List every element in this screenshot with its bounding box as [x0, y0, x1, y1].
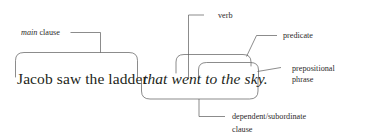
dependent-clause-label-line1: dependent/subordinate	[232, 112, 306, 121]
predicate-label: predicate	[283, 31, 313, 40]
sentence-main-clause: Jacob saw the ladder	[17, 70, 148, 87]
diagram-canvas: main clause predicate verb prepositional…	[0, 0, 368, 140]
dependent-clause-leader	[199, 99, 225, 117]
dependent-clause-label-line2: clause	[232, 125, 253, 134]
prepositional-phrase-label-line1: prepositional	[292, 64, 335, 73]
main-clause-label-italic: main	[21, 28, 37, 37]
verb-label: verb	[218, 11, 233, 20]
sentence-diagram: main clause predicate verb prepositional…	[0, 0, 368, 140]
predicate-leader	[247, 36, 278, 57]
sentence-subordinate-clause: that went to the sky.	[143, 70, 268, 87]
main-clause-label-roman: clause	[37, 28, 60, 37]
main-clause-leader	[71, 33, 101, 53]
main-clause-label: main clause	[21, 28, 60, 37]
prepositional-phrase-label-line2: phrase	[292, 75, 314, 84]
